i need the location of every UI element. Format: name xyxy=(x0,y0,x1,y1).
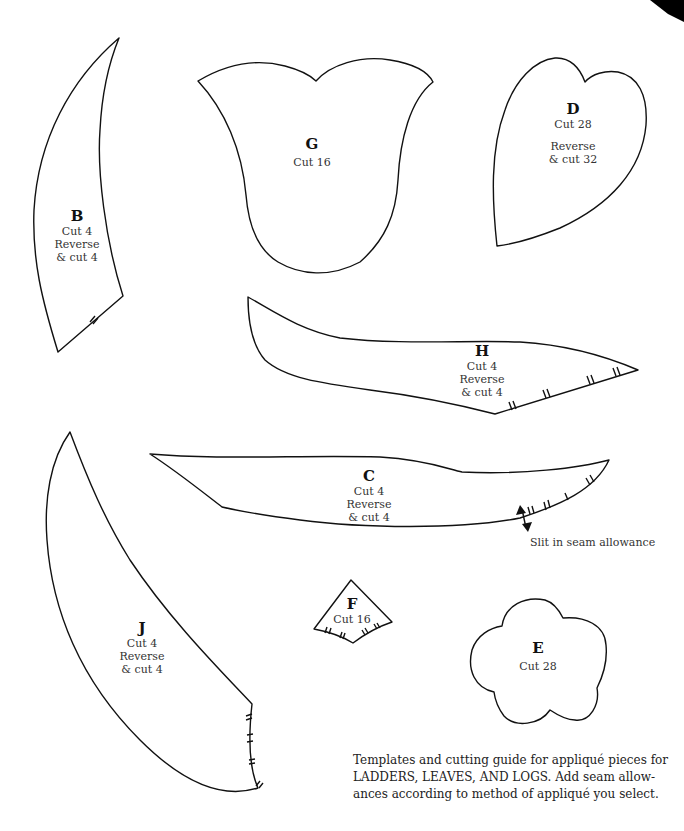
piece-d-label: D Cut 28 Reverse & cut 32 xyxy=(538,101,608,166)
piece-j-letter: J xyxy=(112,620,172,637)
piece-j-reverse-cut: & cut 4 xyxy=(112,663,172,676)
piece-j-reverse: Reverse xyxy=(112,650,172,663)
caption-line-3: ances according to method of appliqué yo… xyxy=(353,786,683,803)
page-corner-marker xyxy=(650,0,684,22)
piece-c-letter: C xyxy=(339,468,399,485)
piece-e-letter: E xyxy=(508,640,568,657)
piece-h-cut: Cut 4 xyxy=(452,360,512,373)
piece-g-letter: G xyxy=(282,136,342,153)
piece-h-reverse-cut: & cut 4 xyxy=(452,386,512,399)
piece-h-letter: H xyxy=(452,343,512,360)
piece-c-reverse: Reverse xyxy=(339,498,399,511)
piece-j-label: J Cut 4 Reverse & cut 4 xyxy=(112,620,172,676)
piece-c-cut: Cut 4 xyxy=(339,485,399,498)
piece-d-letter: D xyxy=(538,101,608,118)
piece-h-reverse: Reverse xyxy=(452,373,512,386)
piece-b-label: B Cut 4 Reverse & cut 4 xyxy=(47,208,107,264)
piece-b-cut: Cut 4 xyxy=(47,225,107,238)
piece-g-cut: Cut 16 xyxy=(282,156,342,169)
piece-c-reverse-cut: & cut 4 xyxy=(339,511,399,524)
piece-e-label: E Cut 28 xyxy=(508,640,568,673)
piece-g-label: G Cut 16 xyxy=(282,136,342,169)
piece-d-reverse-cut: & cut 32 xyxy=(538,153,608,166)
piece-j-outline xyxy=(46,432,263,791)
slit-annotation: Slit in seam allowance xyxy=(530,536,655,549)
caption-line-1: Templates and cutting guide for appliqué… xyxy=(353,752,683,769)
piece-c-label: C Cut 4 Reverse & cut 4 xyxy=(339,468,399,524)
piece-b-reverse: Reverse xyxy=(47,238,107,251)
piece-d-reverse: Reverse xyxy=(538,140,608,153)
piece-f-label: F Cut 16 xyxy=(322,596,382,626)
piece-b-reverse-cut: & cut 4 xyxy=(47,251,107,264)
piece-h-label: H Cut 4 Reverse & cut 4 xyxy=(452,343,512,399)
piece-f-letter: F xyxy=(322,596,382,613)
piece-d-cut: Cut 28 xyxy=(538,118,608,131)
caption: Templates and cutting guide for appliqué… xyxy=(353,752,683,803)
piece-e-cut: Cut 28 xyxy=(508,660,568,673)
piece-h-outline xyxy=(248,297,638,414)
caption-line-2: LADDERS, LEAVES, AND LOGS. Add seam allo… xyxy=(353,769,683,786)
piece-b-outline xyxy=(34,38,123,352)
piece-b-letter: B xyxy=(47,208,107,225)
piece-j-cut: Cut 4 xyxy=(112,637,172,650)
piece-f-cut: Cut 16 xyxy=(322,613,382,626)
